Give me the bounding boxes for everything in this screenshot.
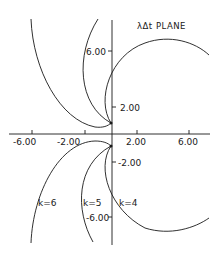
curve-k6-upper xyxy=(31,19,111,127)
y-tick-label: 6.00 xyxy=(86,47,106,57)
curve-k5-upper xyxy=(83,19,111,123)
y-tick-label: -6.00 xyxy=(86,213,110,223)
upper-point xyxy=(110,122,113,125)
x-tick-label: 2.00 xyxy=(126,137,146,147)
curve-label-k4: k=4 xyxy=(119,198,138,208)
stability-diagram: -6.00 -2.00 2.00 6.00 6.00 2.00 -2.00 -6… xyxy=(0,0,221,258)
y-tick-label: 2.00 xyxy=(120,103,140,113)
y-tick-label: -2.00 xyxy=(118,158,142,168)
x-tick-label: 6.00 xyxy=(178,137,198,147)
curve-label-k5: k=5 xyxy=(83,198,101,208)
plot-title: λΔt PLANE xyxy=(137,21,186,31)
x-tick-label: -6.00 xyxy=(13,137,37,147)
curve-k5-lower xyxy=(81,146,111,242)
curve-label-k6: k=6 xyxy=(38,198,57,208)
lower-point xyxy=(110,145,113,148)
curve-k6-lower xyxy=(31,141,111,243)
